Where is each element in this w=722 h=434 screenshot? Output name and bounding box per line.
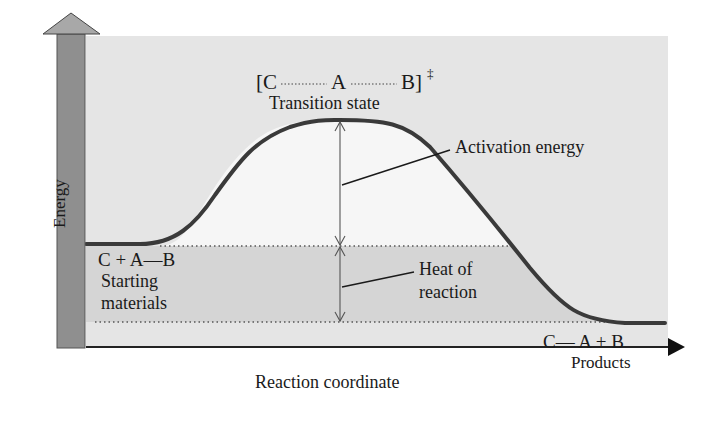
heat-of-reaction-line1: Heat of	[419, 259, 472, 280]
activation-energy-label: Activation energy	[455, 137, 584, 158]
products-formula: C— A + B	[543, 331, 624, 353]
ts-formula-b: B]	[401, 70, 422, 95]
transition-state-label: Transition state	[269, 93, 380, 114]
starting-materials-formula: C + A—B	[98, 249, 175, 271]
ts-formula-dagger: ‡	[427, 66, 434, 82]
products-label: Products	[571, 353, 631, 373]
x-axis-label: Reaction coordinate	[255, 372, 399, 393]
ts-formula-c: [C	[256, 70, 277, 95]
heat-of-reaction-line2: reaction	[419, 282, 477, 303]
ts-formula-a: A	[331, 70, 346, 95]
y-axis-label: Energy	[50, 179, 70, 228]
starting-materials-line2: materials	[101, 293, 167, 314]
starting-materials-line1: Starting	[101, 271, 158, 292]
